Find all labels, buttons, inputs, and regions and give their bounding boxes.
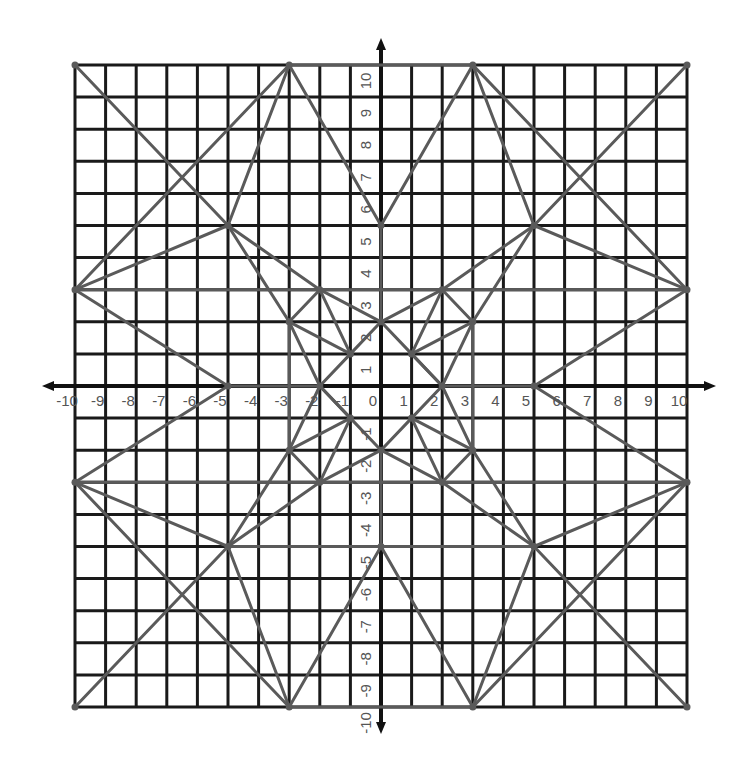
x-tick-label: 9 <box>644 392 652 409</box>
tick-labels: -10-9-8-7-6-5-4-3-2-1012345678910-10-9-8… <box>56 73 687 734</box>
segment <box>289 450 320 482</box>
x-tick-label: -4 <box>244 392 257 409</box>
x-tick-label: 0 <box>369 392 377 409</box>
vertex-point <box>225 383 232 390</box>
vertex-point <box>286 318 293 325</box>
x-tick-label: 1 <box>399 392 407 409</box>
x-tick-label: -3 <box>275 392 288 409</box>
vertex-point <box>225 222 232 229</box>
vertex-point <box>316 479 323 486</box>
x-tick-label: -1 <box>336 392 349 409</box>
y-tick-label: -4 <box>357 524 374 537</box>
vertex-point <box>531 222 538 229</box>
y-tick-label: 5 <box>357 237 374 245</box>
y-tick-label: -7 <box>357 620 374 633</box>
x-tick-label: -5 <box>213 392 226 409</box>
vertex-point <box>378 318 385 325</box>
y-tick-label: 9 <box>357 109 374 117</box>
x-tick-label: -9 <box>91 392 104 409</box>
vertex-point <box>684 479 691 486</box>
x-tick-label: 7 <box>583 392 591 409</box>
x-tick-label: 2 <box>430 392 438 409</box>
vertex-point <box>378 543 385 550</box>
vertex-point <box>72 286 79 293</box>
y-tick-label: 3 <box>357 302 374 310</box>
segment <box>381 65 473 226</box>
x-tick-label: -10 <box>56 392 78 409</box>
coordinate-grid-diagram: -10-9-8-7-6-5-4-3-2-1012345678910-10-9-8… <box>0 0 739 775</box>
vertex-point <box>469 318 476 325</box>
x-tick-label: -7 <box>152 392 165 409</box>
vertex-point <box>531 383 538 390</box>
segment <box>534 290 687 386</box>
x-tick-label: 3 <box>461 392 469 409</box>
vertex-point <box>469 704 476 711</box>
x-axis-arrow-right-icon <box>704 381 716 391</box>
segment <box>381 418 412 450</box>
x-tick-label: -6 <box>183 392 196 409</box>
y-tick-label: -6 <box>357 588 374 601</box>
y-tick-label: 4 <box>357 269 374 277</box>
y-tick-label: -3 <box>357 492 374 505</box>
y-axis-arrow-down-icon <box>376 722 386 734</box>
vertex-point <box>684 286 691 293</box>
x-tick-label: -2 <box>305 392 318 409</box>
vertex-point <box>408 415 415 422</box>
y-tick-label: -10 <box>357 712 374 734</box>
vertex-point <box>439 286 446 293</box>
segment <box>442 450 473 482</box>
vertex-point <box>378 222 385 229</box>
x-axis-arrow-left-icon <box>42 381 54 391</box>
x-tick-label: 6 <box>552 392 560 409</box>
vertex-point <box>469 447 476 454</box>
segment <box>381 547 473 708</box>
y-tick-label: 8 <box>357 141 374 149</box>
vertex-point <box>684 704 691 711</box>
x-tick-label: 10 <box>671 392 688 409</box>
segment <box>75 65 228 226</box>
x-tick-label: 4 <box>491 392 499 409</box>
vertex-point <box>347 415 354 422</box>
vertex-point <box>286 447 293 454</box>
vertex-point <box>286 704 293 711</box>
y-tick-label: 6 <box>357 205 374 213</box>
y-tick-label: -9 <box>357 684 374 697</box>
x-tick-label: 8 <box>614 392 622 409</box>
segment <box>75 290 228 386</box>
vertex-point <box>469 62 476 69</box>
y-tick-label: -1 <box>357 427 374 440</box>
x-tick-label: 5 <box>522 392 530 409</box>
vertex-point <box>531 543 538 550</box>
vertex-point <box>316 383 323 390</box>
segment <box>412 354 443 386</box>
vertex-point <box>72 62 79 69</box>
x-tick-label: -8 <box>122 392 135 409</box>
y-tick-label: 2 <box>357 334 374 342</box>
segment <box>534 65 687 226</box>
y-tick-label: -8 <box>357 652 374 665</box>
y-tick-label: -2 <box>357 460 374 473</box>
segment <box>442 290 473 322</box>
vertex-point <box>439 479 446 486</box>
segment <box>320 354 351 386</box>
y-tick-label: 1 <box>357 366 374 374</box>
vertex-point <box>72 704 79 711</box>
segment <box>75 547 228 708</box>
vertex-point <box>439 383 446 390</box>
vertex-point <box>684 62 691 69</box>
y-tick-label: -5 <box>357 556 374 569</box>
segment <box>381 322 412 354</box>
y-axis-arrow-up-icon <box>376 38 386 50</box>
vertex-point <box>408 350 415 357</box>
y-tick-label: 7 <box>357 173 374 181</box>
vertex-point <box>286 62 293 69</box>
segment <box>289 290 320 322</box>
y-tick-label: 10 <box>357 73 374 90</box>
vertex-point <box>378 447 385 454</box>
vertex-point <box>347 350 354 357</box>
vertex-point <box>316 286 323 293</box>
vertex-point <box>72 479 79 486</box>
segment <box>534 547 687 708</box>
vertex-point <box>225 543 232 550</box>
